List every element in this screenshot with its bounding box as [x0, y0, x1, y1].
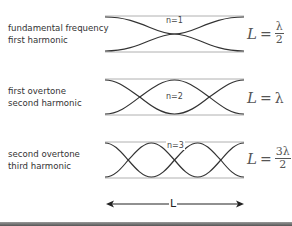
- formula-n3-fraction: 3λ 2: [275, 146, 291, 171]
- formula-n2-eq: =: [260, 90, 272, 106]
- formula-n1-eq: =: [260, 26, 272, 42]
- formula-n1: L = λ 2: [247, 21, 284, 46]
- formula-n3-eq: =: [260, 151, 272, 167]
- formula-n3: L = 3λ 2: [247, 146, 291, 171]
- formula-n3-denominator: 2: [279, 159, 286, 171]
- n3-label: n=3: [166, 141, 185, 150]
- formula-n2-lhs: L: [247, 89, 257, 107]
- formula-n1-denominator: 2: [276, 34, 283, 46]
- formula-n2: L = λ: [247, 89, 284, 107]
- n1-label: n=1: [166, 16, 183, 25]
- n2-label: n=2: [166, 92, 183, 101]
- formula-n3-lhs: L: [247, 150, 257, 168]
- formula-n1-fraction: λ 2: [275, 21, 284, 46]
- formula-n2-rhs: λ: [275, 90, 284, 106]
- formula-n1-lhs: L: [247, 25, 257, 43]
- length-label: L: [169, 197, 177, 210]
- bottom-divider: [0, 222, 292, 226]
